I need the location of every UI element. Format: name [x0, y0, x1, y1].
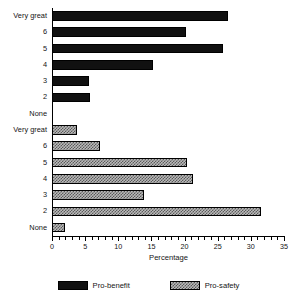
x-axis-minor-tick — [145, 237, 146, 240]
bar-benefit — [52, 76, 89, 86]
y-axis-tick-label: 4 — [43, 57, 47, 73]
x-axis-minor-tick — [79, 237, 80, 240]
x-axis-minor-tick — [171, 237, 172, 240]
chart-row: 3 — [52, 73, 284, 89]
x-axis-minor-tick — [231, 237, 232, 240]
bar-benefit — [52, 93, 90, 103]
chart-row: None — [52, 106, 284, 122]
x-axis-tick-label: 25 — [214, 242, 222, 251]
legend-label: Pro-safety — [205, 281, 240, 290]
x-axis-major-tick — [218, 237, 219, 241]
x-axis-title: Percentage — [52, 253, 285, 262]
y-axis-tick-label: Very great — [13, 122, 47, 138]
legend-label: Pro-benefit — [93, 281, 130, 290]
x-axis-minor-tick — [238, 237, 239, 240]
x-axis-minor-tick — [138, 237, 139, 240]
bar-benefit — [52, 27, 186, 37]
chart-row: 3 — [52, 187, 284, 203]
y-axis-tick-label: 6 — [43, 138, 47, 154]
chart-row: Very great — [52, 122, 284, 138]
x-axis-minor-tick — [132, 237, 133, 240]
y-axis-tick-label: 2 — [43, 203, 47, 219]
legend-swatch-icon — [170, 281, 200, 290]
x-axis-tick-label: 5 — [83, 242, 87, 251]
x-axis-minor-tick — [59, 237, 60, 240]
x-axis-minor-tick — [125, 237, 126, 240]
y-axis-tick-label: 5 — [43, 41, 47, 57]
x-axis-minor-tick — [271, 237, 272, 240]
bar-chart: Very great65432NoneVery great65432None 0… — [0, 0, 297, 304]
legend-item[interactable]: Pro-benefit — [58, 281, 130, 290]
y-axis-tick-label: None — [29, 220, 47, 236]
x-axis-major-tick — [52, 237, 53, 241]
x-axis-major-tick — [151, 237, 152, 241]
x-axis-major-tick — [118, 237, 119, 241]
x-axis-minor-tick — [198, 237, 199, 240]
bar-safety — [52, 141, 100, 151]
x-axis-minor-tick — [165, 237, 166, 240]
x-axis-minor-tick — [264, 237, 265, 240]
y-axis-tick-label: 5 — [43, 155, 47, 171]
x-axis-major-tick — [284, 237, 285, 241]
bar-safety — [52, 158, 187, 168]
x-axis-minor-tick — [277, 237, 278, 240]
x-axis-minor-tick — [105, 237, 106, 240]
bar-safety — [52, 125, 77, 135]
x-axis-minor-tick — [224, 237, 225, 240]
legend-swatch-icon — [58, 281, 88, 290]
x-axis-minor-tick — [191, 237, 192, 240]
x-axis-major-tick — [85, 237, 86, 241]
chart-row: 4 — [52, 57, 284, 73]
x-axis-tick-label: 35 — [280, 242, 288, 251]
x-axis-minor-tick — [112, 237, 113, 240]
legend-item[interactable]: Pro-safety — [170, 281, 240, 290]
y-axis-tick-label: None — [29, 106, 47, 122]
bar-benefit — [52, 44, 223, 54]
plot-area: Very great65432NoneVery great65432None — [52, 8, 284, 236]
bar-benefit — [52, 11, 228, 21]
chart-row: 6 — [52, 24, 284, 40]
x-axis-minor-tick — [211, 237, 212, 240]
bar-safety — [52, 190, 144, 200]
chart-row: 6 — [52, 138, 284, 154]
x-axis-minor-tick — [65, 237, 66, 240]
x-axis-minor-tick — [244, 237, 245, 240]
y-axis-tick-label: 4 — [43, 171, 47, 187]
x-axis-tick-label: 20 — [181, 242, 189, 251]
x-axis-tick-label: 10 — [114, 242, 122, 251]
chart-row: Very great — [52, 8, 284, 24]
bar-benefit — [52, 60, 153, 70]
x-axis-minor-tick — [257, 237, 258, 240]
chart-row: 5 — [52, 155, 284, 171]
chart-row: 2 — [52, 203, 284, 219]
bar-safety — [52, 223, 65, 233]
x-axis-tick-label: 0 — [50, 242, 54, 251]
y-axis-tick-label: 3 — [43, 73, 47, 89]
bar-safety — [52, 207, 261, 217]
chart-row: None — [52, 220, 284, 236]
x-axis-minor-tick — [204, 237, 205, 240]
y-axis-tick-label: 2 — [43, 89, 47, 105]
bar-safety — [52, 174, 193, 184]
x-axis-major-tick — [251, 237, 252, 241]
x-axis-tick-label: 30 — [247, 242, 255, 251]
x-axis-minor-tick — [158, 237, 159, 240]
x-axis-minor-tick — [92, 237, 93, 240]
y-axis-tick-label: Very great — [13, 8, 47, 24]
x-axis-major-tick — [185, 237, 186, 241]
chart-row: 2 — [52, 89, 284, 105]
chart-legend: Pro-benefitPro-safety — [0, 281, 297, 290]
chart-row: 5 — [52, 41, 284, 57]
chart-row: 4 — [52, 171, 284, 187]
x-axis-minor-tick — [72, 237, 73, 240]
x-axis-tick-label: 15 — [147, 242, 155, 251]
y-axis-tick-label: 3 — [43, 187, 47, 203]
x-axis-minor-tick — [178, 237, 179, 240]
x-axis-minor-tick — [98, 237, 99, 240]
y-axis-tick-label: 6 — [43, 24, 47, 40]
